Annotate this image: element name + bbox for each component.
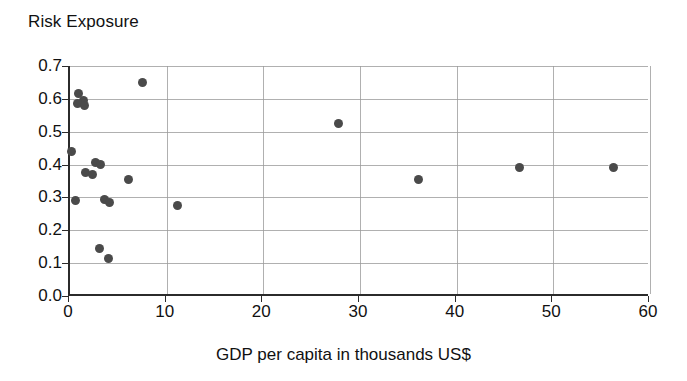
y-axis-tick-label: 0.5	[38, 122, 62, 142]
data-point	[80, 101, 89, 110]
x-axis-tick-mark	[648, 296, 649, 302]
y-axis-tick-mark	[62, 66, 68, 67]
y-axis-tick-label: 0.7	[38, 56, 62, 76]
gridline-vertical	[360, 66, 361, 294]
scatter-plot-figure: Risk Exposure 0.00.10.20.30.40.50.60.7 0…	[0, 0, 687, 381]
x-axis-tick-label: 30	[349, 302, 368, 322]
data-point	[105, 198, 114, 207]
y-axis-tick-mark	[62, 99, 68, 100]
data-point	[88, 170, 97, 179]
y-axis-tick-mark	[62, 230, 68, 231]
y-axis-tick-label: 0.4	[38, 155, 62, 175]
y-axis-tick-mark	[62, 263, 68, 264]
data-point	[104, 254, 113, 263]
plot-area	[68, 66, 648, 296]
y-axis-tick-mark	[62, 132, 68, 133]
y-axis-tick-label: 0.1	[38, 253, 62, 273]
x-axis-tick-mark	[551, 296, 552, 302]
x-axis-tick-mark	[68, 296, 69, 302]
x-axis-tick-mark	[165, 296, 166, 302]
y-axis-tick-label: 0.0	[38, 286, 62, 306]
page-title: Risk Exposure	[28, 12, 139, 32]
gridline-horizontal	[70, 263, 648, 264]
y-axis-tick-mark	[62, 165, 68, 166]
gridline-horizontal	[70, 99, 648, 100]
y-axis-tick-labels: 0.00.10.20.30.40.50.60.7	[0, 66, 62, 296]
gridline-vertical	[650, 66, 651, 294]
data-point	[138, 78, 147, 87]
data-point	[95, 244, 104, 253]
x-axis-tick-mark	[261, 296, 262, 302]
y-axis-tick-label: 0.3	[38, 187, 62, 207]
x-axis-tick-labels: 0102030405060	[68, 302, 648, 326]
data-point	[414, 175, 423, 184]
grid-lines	[70, 66, 648, 294]
x-axis-title: GDP per capita in thousands US$	[0, 345, 687, 365]
gridline-vertical	[457, 66, 458, 294]
data-point	[124, 175, 133, 184]
x-axis-tick-label: 10	[155, 302, 174, 322]
gridline-vertical	[263, 66, 264, 294]
y-axis-tick-label: 0.6	[38, 89, 62, 109]
gridline-horizontal	[70, 230, 648, 231]
x-axis-tick-label: 0	[63, 302, 72, 322]
gridline-horizontal	[70, 197, 648, 198]
gridline-horizontal	[70, 66, 648, 67]
data-point	[173, 201, 182, 210]
x-axis-tick-mark	[358, 296, 359, 302]
gridline-vertical	[167, 66, 168, 294]
x-axis-tick-label: 40	[445, 302, 464, 322]
y-axis-tick-mark	[62, 197, 68, 198]
x-axis-tick-mark	[455, 296, 456, 302]
gridline-vertical	[553, 66, 554, 294]
y-axis-tick-label: 0.2	[38, 220, 62, 240]
x-axis-tick-label: 20	[252, 302, 271, 322]
x-axis-tick-label: 60	[639, 302, 658, 322]
x-axis-tick-label: 50	[542, 302, 561, 322]
gridline-horizontal	[70, 132, 648, 133]
gridline-horizontal	[70, 165, 648, 166]
